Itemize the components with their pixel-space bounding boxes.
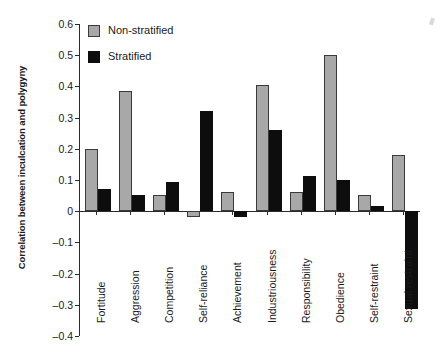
- bar: [358, 195, 371, 212]
- bar: [324, 55, 337, 211]
- y-tick-label: –0.3: [53, 300, 73, 311]
- chart-legend: Non-stratified Stratified: [88, 22, 173, 74]
- legend-label: Non-stratified: [108, 25, 173, 36]
- y-tick-label: 0.5: [58, 50, 73, 61]
- bar: [153, 195, 166, 212]
- y-tick-mark: [75, 24, 79, 25]
- bar: [392, 155, 405, 211]
- y-tick-mark: [75, 55, 79, 56]
- x-tick-mark: [96, 211, 97, 215]
- category-label: Aggression: [130, 271, 141, 324]
- category-label: Responsibility: [301, 258, 312, 323]
- x-tick-mark: [301, 211, 302, 215]
- y-tick-label: 0: [67, 206, 73, 217]
- y-tick-mark: [75, 118, 79, 119]
- bar: [119, 91, 132, 211]
- legend-item-non-stratified[interactable]: Non-stratified: [88, 22, 173, 39]
- bar: [221, 192, 234, 211]
- legend-item-stratified[interactable]: Stratified: [88, 48, 173, 65]
- y-tick-label: –0.1: [53, 237, 73, 248]
- category-label: Achievement: [232, 262, 243, 323]
- y-tick-mark: [75, 305, 79, 306]
- category-label: Obedience: [335, 272, 346, 323]
- category-label: Self-restraint: [369, 264, 380, 324]
- bar: [234, 211, 247, 217]
- category-label: Competition: [164, 267, 175, 323]
- x-tick-mark: [369, 211, 370, 215]
- category-label: Sexual restraint: [403, 250, 414, 323]
- category-label: Industriousness: [267, 250, 278, 324]
- category-label: Self-reliance: [198, 265, 209, 323]
- bar: [256, 85, 269, 211]
- bar: [132, 195, 145, 212]
- bar: [166, 182, 179, 211]
- bar: [98, 189, 111, 211]
- x-tick-mark: [130, 211, 131, 215]
- y-tick-label: 0.3: [58, 112, 73, 123]
- scan-artifact: [429, 18, 435, 26]
- bar: [187, 211, 200, 217]
- bar: [269, 130, 282, 211]
- y-tick-mark: [75, 242, 79, 243]
- y-axis-line: [79, 24, 80, 336]
- y-tick-label: 0.6: [58, 19, 73, 30]
- y-tick-label: 0.2: [58, 144, 73, 155]
- legend-swatch-icon: [88, 51, 100, 63]
- y-tick-mark: [75, 274, 79, 275]
- y-tick-mark: [75, 336, 79, 337]
- legend-swatch-icon: [88, 25, 100, 37]
- bar: [200, 111, 213, 211]
- y-tick-mark: [75, 149, 79, 150]
- chart-figure: Correlation between inculcation and poly…: [0, 0, 441, 360]
- y-axis-title: Correlation between inculcation and poly…: [16, 43, 27, 293]
- y-tick-label: 0.1: [58, 175, 73, 186]
- bar: [371, 206, 384, 212]
- y-tick-mark: [75, 211, 79, 212]
- y-tick-mark: [75, 86, 79, 87]
- x-tick-mark: [164, 211, 165, 215]
- x-tick-mark: [232, 211, 233, 215]
- bar: [85, 149, 98, 211]
- y-tick-label: 0.4: [58, 81, 73, 92]
- bar: [303, 176, 316, 211]
- legend-label: Stratified: [108, 51, 151, 62]
- bar: [290, 192, 303, 211]
- y-tick-mark: [75, 180, 79, 181]
- category-label: Fortitude: [96, 282, 107, 323]
- bar: [337, 180, 350, 211]
- x-tick-mark: [335, 211, 336, 215]
- y-tick-label: –0.4: [53, 331, 73, 342]
- x-tick-mark: [267, 211, 268, 215]
- y-tick-label: –0.2: [53, 268, 73, 279]
- x-tick-mark: [403, 211, 404, 215]
